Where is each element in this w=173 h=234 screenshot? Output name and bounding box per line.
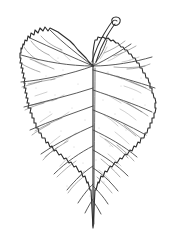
- blade-silhouette: [20, 27, 156, 228]
- petiole-hook-icon: [112, 17, 121, 25]
- leaf-blade-outline: [20, 27, 156, 228]
- leaf-illustration: Botanical line drawing of a leaf: [0, 0, 173, 234]
- drawing-canvas: Botanical line drawing of a leaf: [0, 0, 173, 234]
